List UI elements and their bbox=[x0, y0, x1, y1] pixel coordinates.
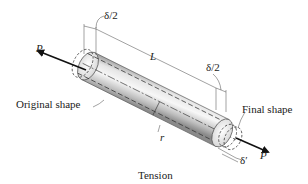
load-arrow-left bbox=[38, 51, 86, 70]
radius-label: r bbox=[160, 132, 164, 143]
figure-caption: Tension bbox=[138, 170, 173, 181]
final-shape-label: Final shape bbox=[242, 104, 292, 115]
elongation-half-label-left: δ/2 bbox=[104, 10, 118, 21]
tension-bar-diagram: P P L δ/2 δ/2 δ′ r Original shape Final … bbox=[0, 0, 308, 184]
elongation-half-label-right: δ/2 bbox=[206, 62, 220, 73]
load-label-left: P bbox=[36, 43, 43, 54]
lateral-contraction-label: δ′ bbox=[240, 155, 248, 166]
cylinder-body bbox=[68, 46, 247, 155]
original-shape-label: Original shape bbox=[16, 99, 80, 110]
length-label: L bbox=[150, 51, 156, 62]
load-label-right: P bbox=[260, 150, 267, 161]
